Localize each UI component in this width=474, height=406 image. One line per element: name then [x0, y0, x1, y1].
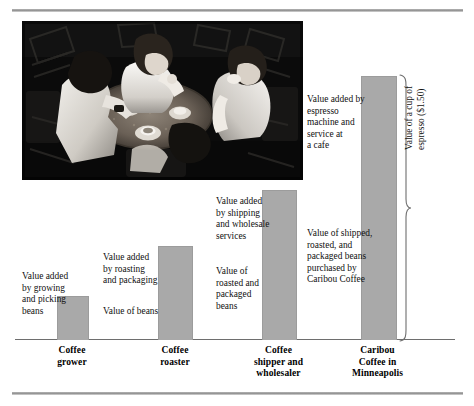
brace-label-line2: espresso ($1.50) — [416, 30, 428, 150]
category-label-line2: Coffee in — [330, 357, 425, 369]
annotation-roaster-value-of-beans: Value of beans — [103, 306, 183, 318]
top-rule — [12, 9, 463, 12]
category-label-coffee-shipper-wholesaler: Coffee shipper and wholesaler — [231, 345, 326, 380]
category-label-line2: grower — [32, 357, 112, 369]
annotation-roaster-value-added: Value added by roasting and packaging — [103, 252, 173, 287]
category-label-coffee-grower: Coffee grower — [32, 345, 112, 368]
category-label-line3: Minneapolis — [330, 368, 425, 380]
annotation-grower-value-added: Value added by growing and picking beans — [22, 271, 84, 317]
brace-label-line1: Value of a cup of — [404, 86, 414, 150]
bottom-rule — [12, 392, 463, 395]
category-label-coffee-roaster: Coffee roaster — [135, 345, 215, 368]
annotation-shipper-value-of-beans: Value of roasted and packaged beans — [216, 266, 286, 312]
category-label-line2: shipper and — [231, 357, 326, 369]
total-value-brace-label: Value of a cup of espresso ($1.50) — [404, 30, 428, 150]
category-label-line1: Caribou — [330, 345, 425, 357]
category-label-line2: roaster — [135, 357, 215, 369]
category-label-line1: Coffee — [231, 345, 326, 357]
category-label-line1: Coffee — [32, 345, 112, 357]
category-label-caribou-coffee: Caribou Coffee in Minneapolis — [330, 345, 425, 380]
annotation-shipper-value-added: Value added by shipping and wholesale se… — [216, 196, 288, 242]
figure-container: Coffee grower Coffee roaster Coffee ship… — [0, 0, 474, 406]
category-label-line3: wholesaler — [231, 368, 326, 380]
category-label-line1: Coffee — [135, 345, 215, 357]
annotation-caribou-value-added: Value added by espresso machine and serv… — [307, 94, 369, 152]
cafe-photograph — [22, 21, 303, 180]
annotation-caribou-value-of-beans: Value of shipped, roasted, and packaged … — [307, 228, 373, 286]
